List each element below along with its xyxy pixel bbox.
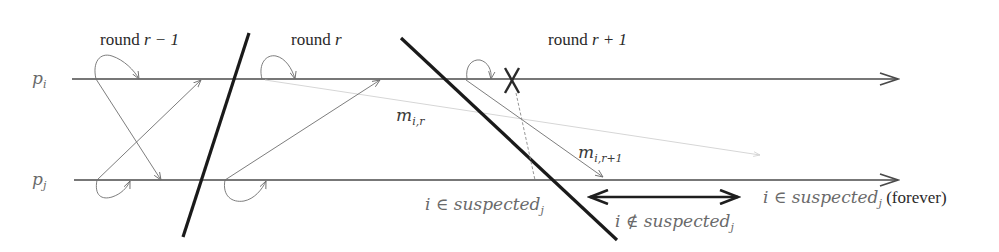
process-label-pi: pi bbox=[32, 68, 46, 91]
self-loop-pj-round-r bbox=[224, 180, 266, 201]
crash-detection-dashed-line bbox=[516, 93, 535, 180]
round-execution-diagram: round r − 1 round r round r + 1 pi pj mi… bbox=[0, 0, 999, 252]
round-label-r: round r bbox=[291, 30, 342, 49]
self-loop-pi-round-r bbox=[261, 56, 295, 79]
self-loop-pi-round-r-plus-1 bbox=[467, 60, 491, 79]
self-loop-pj-round-r-minus-1 bbox=[96, 180, 130, 198]
crash-marker-icon bbox=[505, 68, 519, 93]
round-label-r-minus-1: round r − 1 bbox=[100, 30, 179, 49]
message-label-m-i-r-plus-1: mi,r+1 bbox=[578, 142, 623, 165]
message-pj-to-pi-round-r bbox=[225, 80, 380, 180]
round-label-r-plus-1: round r + 1 bbox=[548, 30, 627, 49]
message-pi-to-pj-round-r-minus-1 bbox=[96, 79, 161, 180]
annotation-suspected-before: i ∈ suspectedj bbox=[425, 194, 544, 217]
annotation-not-suspected: i ∉ suspectedj bbox=[615, 211, 734, 234]
annotation-suspected-forever: i ∈ suspectedj (forever) bbox=[763, 187, 947, 210]
message-pj-to-pi-round-r-minus-1 bbox=[97, 80, 201, 180]
message-label-m-i-r: mi,r bbox=[396, 105, 425, 128]
process-label-pj: pj bbox=[32, 169, 47, 192]
round-boundary-1 bbox=[183, 33, 249, 237]
self-loop-pi-round-r-minus-1 bbox=[95, 55, 139, 79]
